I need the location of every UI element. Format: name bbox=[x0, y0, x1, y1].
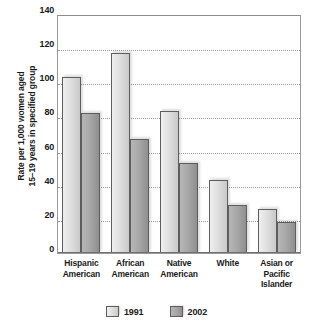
x-axis-label-4: Asian orPacificIslander bbox=[252, 258, 301, 290]
legend-label-1991: 1991 bbox=[124, 307, 144, 317]
bar-group-4 bbox=[258, 16, 298, 253]
bar-1991-2[interactable] bbox=[160, 111, 179, 253]
y-axis-tick-40: 40 bbox=[24, 176, 54, 186]
legend-label-2002: 2002 bbox=[188, 307, 208, 317]
legend-swatch-1991 bbox=[106, 306, 119, 317]
x-axis-label-0: HispanicAmerican bbox=[57, 258, 106, 279]
legend-item-2002[interactable]: 2002 bbox=[170, 306, 208, 317]
bar-1991-3[interactable] bbox=[209, 180, 228, 253]
bar-1991-1[interactable] bbox=[111, 53, 130, 253]
x-axis-label-line: Islander bbox=[252, 279, 301, 290]
x-axis-category-labels: HispanicAmericanAfricanAmericanNativeAme… bbox=[57, 258, 301, 300]
legend-swatch-2002 bbox=[170, 306, 183, 317]
x-axis-label-3: White bbox=[203, 258, 252, 269]
x-axis-label-line: American bbox=[155, 269, 204, 280]
x-axis-label-line: Asian or bbox=[252, 258, 301, 269]
bars-layer bbox=[58, 16, 300, 253]
x-axis-label-line: American bbox=[106, 269, 155, 280]
bar-2002-4[interactable] bbox=[277, 222, 296, 253]
x-axis-label-1: AfricanAmerican bbox=[106, 258, 155, 279]
x-axis-label-line: African bbox=[106, 258, 155, 269]
bar-group-1 bbox=[111, 16, 151, 253]
bar-group-2 bbox=[160, 16, 200, 253]
x-axis-label-2: NativeAmerican bbox=[155, 258, 204, 279]
bar-chart: Rate per 1,000 women aged 15–19 years in… bbox=[0, 0, 313, 327]
y-axis-tick-0: 0 bbox=[24, 244, 54, 254]
x-axis-label-line: White bbox=[203, 258, 252, 269]
x-axis-label-line: American bbox=[57, 269, 106, 280]
x-axis-label-line: Pacific bbox=[252, 269, 301, 280]
y-axis-tick-100: 100 bbox=[24, 73, 54, 83]
legend-item-1991[interactable]: 1991 bbox=[106, 306, 144, 317]
plot-area bbox=[57, 15, 301, 254]
bar-2002-3[interactable] bbox=[228, 205, 247, 253]
chart-legend: 19912002 bbox=[0, 306, 313, 317]
y-axis-tick-20: 20 bbox=[24, 210, 54, 220]
bar-2002-2[interactable] bbox=[179, 163, 198, 253]
y-axis-tick-140: 140 bbox=[24, 5, 54, 15]
y-axis-tick-60: 60 bbox=[24, 142, 54, 152]
y-axis-tick-120: 120 bbox=[24, 39, 54, 49]
axis-baseline bbox=[58, 252, 300, 253]
bar-group-3 bbox=[209, 16, 249, 253]
bar-group-0 bbox=[62, 16, 102, 253]
bar-1991-4[interactable] bbox=[258, 209, 277, 253]
bar-1991-0[interactable] bbox=[62, 77, 81, 253]
y-axis-tick-80: 80 bbox=[24, 107, 54, 117]
y-axis-tick-labels: 020406080100120140 bbox=[24, 10, 54, 254]
bar-2002-1[interactable] bbox=[130, 139, 149, 253]
x-axis-label-line: Hispanic bbox=[57, 258, 106, 269]
bar-2002-0[interactable] bbox=[81, 113, 100, 253]
x-axis-label-line: Native bbox=[155, 258, 204, 269]
